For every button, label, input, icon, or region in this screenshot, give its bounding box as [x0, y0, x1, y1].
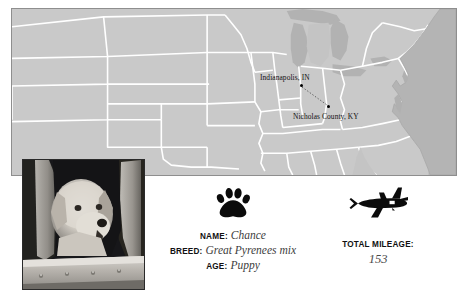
dog-breed-label: BREED: — [170, 247, 203, 256]
dog-name-value: Chance — [231, 229, 266, 241]
total-mileage-label: TOTAL MILEAGE: — [318, 238, 438, 251]
dog-breed-row: BREED:Great Pyrenees mix — [148, 241, 318, 256]
page-root: Indianapolis, IN Nicholas County, KY — [0, 0, 470, 294]
map-label-nicholas-county: Nicholas County, KY — [293, 113, 359, 120]
map-label-indianapolis: Indianapolis, IN — [260, 74, 310, 81]
dog-age-label: AGE: — [206, 262, 227, 271]
dog-info-block: NAME:Chance BREED:Great Pyrenees mix AGE… — [148, 226, 318, 271]
total-mileage-block: TOTAL MILEAGE: 153 — [318, 238, 438, 267]
airplane-glyph — [348, 186, 408, 220]
dog-age-row: AGE:Puppy — [148, 256, 318, 271]
dog-age-value: Puppy — [230, 259, 259, 271]
dog-name-label: NAME: — [200, 232, 228, 241]
total-mileage-value: 153 — [318, 251, 438, 267]
map-marker-indianapolis — [300, 84, 303, 87]
dog-breed-value: Great Pyrenees mix — [206, 244, 296, 256]
us-map-graphic — [12, 9, 456, 175]
dog-name-row: NAME:Chance — [148, 226, 318, 241]
paw-print-icon — [213, 186, 253, 220]
map-marker-nicholas-county — [327, 105, 330, 108]
puppy-photo — [23, 160, 144, 289]
paw-print-glyph — [213, 186, 253, 220]
map-panel — [11, 8, 457, 176]
airplane-icon — [348, 186, 408, 220]
puppy-photo-image — [23, 160, 144, 289]
